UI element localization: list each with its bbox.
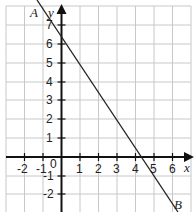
point-b-label: B bbox=[174, 197, 182, 212]
x-axis bbox=[6, 152, 194, 162]
point-a-label: A bbox=[29, 5, 38, 20]
y-tick-label: 3 bbox=[46, 93, 53, 107]
x-tick-label: -2 bbox=[17, 162, 28, 176]
y-tick-label: 2 bbox=[46, 112, 53, 126]
coordinate-plane: -2 -1 0 1 2 3 4 5 6 7 6 5 4 3 2 1 -1 -2 … bbox=[0, 0, 195, 212]
x-tick-label: 5 bbox=[150, 162, 157, 176]
y-tick-label: -2 bbox=[43, 187, 54, 201]
x-tick-label: 2 bbox=[95, 162, 102, 176]
x-tick-label: 3 bbox=[113, 162, 120, 176]
y-tick-label: -1 bbox=[43, 169, 54, 183]
y-tick-label: 1 bbox=[46, 131, 53, 145]
x-tick-label: 1 bbox=[76, 162, 83, 176]
y-tick-label: 5 bbox=[46, 56, 53, 70]
x-axis-label: x bbox=[183, 160, 190, 175]
y-tick-label: 4 bbox=[46, 75, 53, 89]
y-axis-label: y bbox=[46, 5, 54, 20]
line-ab bbox=[37, 0, 178, 212]
y-axis bbox=[57, 4, 67, 212]
y-tick-label: 7 bbox=[46, 18, 53, 32]
x-tick-label: 6 bbox=[169, 162, 176, 176]
y-tick-labels: 7 6 5 4 3 2 1 -1 -2 bbox=[43, 18, 54, 201]
y-tick-label: 6 bbox=[46, 37, 53, 51]
x-tick-label: 4 bbox=[132, 162, 139, 176]
grid bbox=[6, 6, 191, 212]
